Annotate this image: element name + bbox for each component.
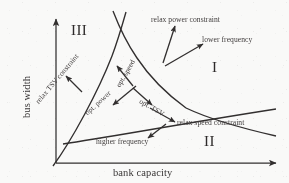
arrow-relax-tsv-constraint [66, 76, 82, 92]
arrow-lower-frequency [165, 44, 203, 66]
region-label-two: II [204, 134, 215, 149]
region-label-three: III [71, 23, 87, 38]
arrow-higher-frequency [148, 124, 166, 138]
arrow-relax-power-constraint [163, 26, 175, 63]
annotation-lower-frequency: lower frequency [202, 36, 252, 44]
annotation-relax-speed-constraint: relax speed constraint [177, 119, 244, 127]
y-axis-label: bus width [22, 76, 33, 118]
design-space-diagram: bus width bank capacity I II III relax p… [0, 0, 289, 183]
annotation-relax-power-constraint: relax power constraint [151, 16, 220, 24]
arrow-opt-power [113, 86, 136, 105]
region-label-one: I [212, 60, 217, 75]
annotation-higher-frequency: higher frequency [96, 138, 148, 146]
x-axis-label: bank capacity [113, 168, 172, 179]
